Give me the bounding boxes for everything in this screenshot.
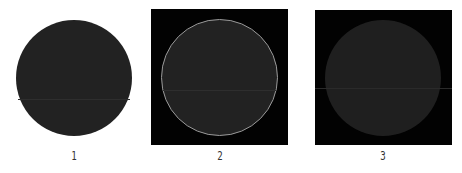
panel-2-circle — [161, 19, 278, 136]
panel-2-seam — [163, 90, 276, 91]
panel-3-seam — [315, 88, 452, 89]
panel-2-label: 2 — [213, 148, 227, 163]
panel-3-label: 3 — [376, 148, 390, 163]
panel-1-seam — [18, 99, 130, 100]
panel-2 — [151, 9, 288, 145]
panel-3 — [315, 10, 452, 145]
panel-1-label: 1 — [67, 148, 81, 163]
panel-1 — [8, 9, 140, 145]
panel-1-circle — [16, 20, 132, 136]
panel-3-circle — [325, 20, 441, 136]
